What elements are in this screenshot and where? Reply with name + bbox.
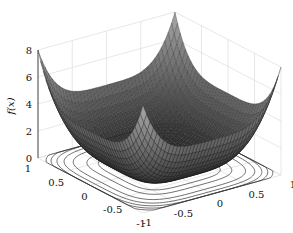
x-tick-label: 1 — [290, 179, 293, 190]
z-tick-label: 0 — [26, 153, 32, 164]
x-tick-label: -0.5 — [174, 208, 193, 219]
y-tick-label: 0.5 — [48, 177, 64, 188]
surface-plot: 0246810.50-0.5-1-1-0.500.51 f(x) — [0, 0, 293, 233]
z-tick-label: 6 — [26, 72, 32, 83]
y-tick-label: 1 — [25, 163, 31, 174]
z-tick-label: 4 — [26, 99, 32, 110]
x-tick-label: -1 — [142, 217, 152, 228]
z-tick-label: 8 — [26, 45, 32, 56]
y-tick-label: -0.5 — [103, 204, 122, 215]
surface-mesh — [38, 12, 281, 183]
x-tick-label: 0.5 — [249, 189, 265, 200]
y-tick-label: 0 — [81, 191, 87, 202]
z-tick-label: 2 — [26, 126, 32, 137]
x-tick-label: 0 — [217, 198, 223, 209]
z-axis-label: f(x) — [5, 97, 16, 115]
